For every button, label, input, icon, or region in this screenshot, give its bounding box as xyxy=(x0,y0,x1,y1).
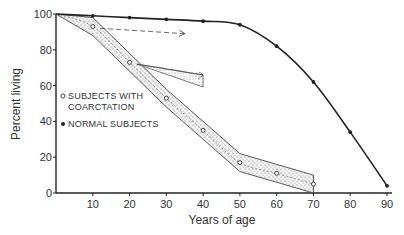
x-tick-label: 70 xyxy=(307,198,319,210)
normal-data-point xyxy=(348,130,352,134)
coarctation-data-point xyxy=(91,25,95,29)
x-ticks: 102030405060708090 xyxy=(87,193,393,210)
filled-circle-icon xyxy=(61,122,65,126)
coarctation-data-point xyxy=(238,161,242,165)
normal-data-point xyxy=(238,23,242,27)
x-tick-label: 10 xyxy=(87,198,99,210)
open-circle-icon xyxy=(61,94,65,98)
legend-normal: NORMAL SUBJECTS xyxy=(68,119,159,129)
normal-data-point xyxy=(385,184,389,188)
coarctation-data-point xyxy=(164,96,168,100)
coarctation-data-point xyxy=(275,171,279,175)
y-ticks: 020406080100 xyxy=(34,8,56,199)
normal-data-point xyxy=(201,19,205,23)
x-axis-label: Years of age xyxy=(189,213,256,227)
normal-data-point xyxy=(128,16,132,20)
y-axis-label: Percent living xyxy=(9,68,23,140)
coarctation-data-point xyxy=(311,182,315,186)
x-tick-label: 30 xyxy=(160,198,172,210)
x-tick-label: 50 xyxy=(234,198,246,210)
normal-data-point xyxy=(91,14,95,18)
legend-coarctation-line1: SUBJECTS WITH xyxy=(68,91,143,101)
coarctation-data-point xyxy=(201,128,205,132)
x-tick-label: 80 xyxy=(344,198,356,210)
normal-data-point xyxy=(312,80,316,84)
y-tick-label: 100 xyxy=(34,8,52,20)
normal-data-point xyxy=(275,44,279,48)
survival-chart: 020406080100 102030405060708090 Percent … xyxy=(0,0,404,235)
y-tick-label: 20 xyxy=(40,151,52,163)
x-tick-label: 90 xyxy=(381,198,393,210)
coarctation-data-point xyxy=(128,60,132,64)
y-tick-label: 60 xyxy=(40,80,52,92)
dashed-arrow xyxy=(100,28,185,33)
legend-coarctation-line2: COARCTATION xyxy=(68,102,134,112)
x-tick-label: 60 xyxy=(271,198,283,210)
normal-data-point xyxy=(164,17,168,21)
x-tick-label: 20 xyxy=(123,198,135,210)
y-tick-label: 40 xyxy=(40,115,52,127)
y-tick-label: 80 xyxy=(40,44,52,56)
y-tick-label: 0 xyxy=(46,187,52,199)
legend: SUBJECTS WITH COARCTATION NORMAL SUBJECT… xyxy=(61,91,159,129)
x-tick-label: 40 xyxy=(197,198,209,210)
